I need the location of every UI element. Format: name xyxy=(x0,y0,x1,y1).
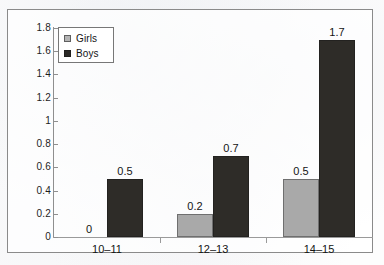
y-axis-tick-mark xyxy=(54,98,58,99)
chart-legend: Girls Boys xyxy=(58,27,114,63)
y-axis-tick-mark xyxy=(54,144,58,145)
y-axis-tick-label: 1.6 xyxy=(17,46,51,56)
legend-item-girls: Girls xyxy=(64,31,113,45)
y-axis-tick-label: 0.8 xyxy=(17,139,51,149)
y-axis-tick-label: 1.4 xyxy=(17,69,51,79)
bar-value-label-girls-0: 0 xyxy=(71,223,107,235)
y-axis-tick-label: 0.2 xyxy=(17,209,51,219)
bar-value-label-girls-1: 0.2 xyxy=(177,200,213,212)
y-axis-ticks: 00.20.40.60.811.21.41.61.8 xyxy=(13,10,51,265)
x-axis-category-label-1: 12–13 xyxy=(160,243,266,256)
bar-value-label-boys-2: 1.7 xyxy=(319,26,355,38)
y-axis-tick-mark xyxy=(54,214,58,215)
y-axis-tick-mark xyxy=(54,237,58,238)
bar-value-label-boys-1: 0.7 xyxy=(213,142,249,154)
y-axis-tick-mark xyxy=(54,191,58,192)
y-axis-tick-label: 1.8 xyxy=(17,23,51,33)
y-axis-tick-mark xyxy=(54,167,58,168)
y-axis-tick-label: 1 xyxy=(17,116,51,126)
bar-girls-1 xyxy=(177,214,213,237)
legend-item-boys: Boys xyxy=(64,46,113,60)
y-axis-tick-label: 0 xyxy=(17,232,51,242)
bar-boys-0 xyxy=(107,179,143,237)
bar-value-label-girls-2: 0.5 xyxy=(283,165,319,177)
legend-label-girls: Girls xyxy=(76,33,97,44)
y-axis-tick-label: 1.2 xyxy=(17,93,51,103)
girls-swatch-icon xyxy=(64,35,71,42)
x-axis-category-label-0: 10–11 xyxy=(54,243,160,256)
scan-canvas: 00.20.40.60.811.21.41.61.8 00.50.20.70.5… xyxy=(0,0,384,265)
x-axis-line xyxy=(53,237,373,238)
bar-boys-2 xyxy=(319,40,355,237)
x-axis-category-label-2: 14–15 xyxy=(266,243,372,256)
legend-label-boys: Boys xyxy=(76,48,99,59)
bar-value-label-boys-0: 0.5 xyxy=(107,165,143,177)
y-axis-line xyxy=(53,27,54,238)
y-axis-tick-label: 0.4 xyxy=(17,186,51,196)
chart-frame: 00.20.40.60.811.21.41.61.8 00.50.20.70.5… xyxy=(7,9,373,253)
bar-girls-2 xyxy=(283,179,319,237)
boys-swatch-icon xyxy=(64,50,71,57)
y-axis-tick-mark xyxy=(54,121,58,122)
y-axis-tick-mark xyxy=(54,74,58,75)
bar-boys-1 xyxy=(213,156,249,237)
y-axis-tick-label: 0.6 xyxy=(17,162,51,172)
